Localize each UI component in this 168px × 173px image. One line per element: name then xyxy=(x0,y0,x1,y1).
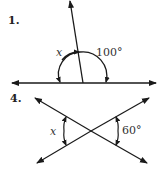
problem-number: 4. xyxy=(10,92,21,105)
angle-arc-60-lower xyxy=(116,131,118,145)
angle-arc-x-lower xyxy=(64,131,66,145)
problem-4: 4. x 60° xyxy=(10,92,149,163)
angle-arc-x-upper xyxy=(64,117,66,131)
angle-arc-60-upper xyxy=(116,117,118,131)
ray-up xyxy=(70,1,83,83)
diagram-canvas: 1. x 100° 4. x 60° xyxy=(0,0,168,173)
problem-number: 1. xyxy=(8,14,19,27)
angle-label-x: x xyxy=(56,46,63,59)
angle-label-given: 100° xyxy=(96,46,123,59)
angle-label-given: 60° xyxy=(122,124,142,137)
problem-1: 1. x 100° xyxy=(8,1,156,83)
line-a-upper xyxy=(35,98,91,131)
angle-label-x: x xyxy=(50,125,57,138)
